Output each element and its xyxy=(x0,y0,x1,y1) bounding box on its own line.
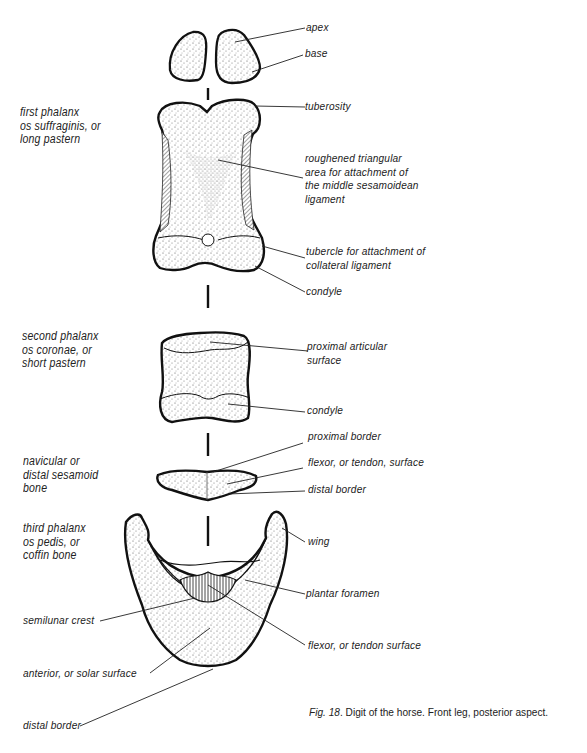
caption-text: Digit of the horse. Front leg, posterior… xyxy=(346,706,549,718)
label-navicular: navicular or distal sesamoid bone xyxy=(23,455,98,496)
label-plantar-foramen: plantar foramen xyxy=(306,587,380,601)
label-anterior-solar-surface: anterior, or solar surface xyxy=(23,667,137,681)
label-tuberosity: tuberosity xyxy=(305,100,351,114)
label-roughened-triangular-area: roughened triangular area for attachment… xyxy=(305,152,419,206)
second-phalanx-bone xyxy=(160,332,250,422)
navicular-bone xyxy=(157,471,256,500)
label-wing: wing xyxy=(308,535,330,549)
label-flexor-tendon-surface-coffin: flexor, or tendon surface xyxy=(308,639,421,653)
label-proximal-border: proximal border xyxy=(308,430,381,444)
label-second-phalanx: second phalanx os coronae, or short past… xyxy=(22,330,98,371)
proximal-sesamoid-bones xyxy=(170,30,260,83)
label-base: base xyxy=(305,47,328,61)
third-phalanx-bone xyxy=(125,512,287,666)
first-phalanx-bone xyxy=(153,100,264,271)
label-first-phalanx: first phalanx os suffraginis, or long pa… xyxy=(20,106,101,147)
figure-number: Fig. 18 xyxy=(309,706,340,718)
label-proximal-articular-surface: proximal articular surface xyxy=(307,340,387,367)
label-tubercle: tubercle for attachment of collateral li… xyxy=(306,245,425,272)
label-third-phalanx: third phalanx os pedis, or coffin bone xyxy=(23,522,86,563)
label-condyle-first: condyle xyxy=(306,285,342,299)
label-apex: apex xyxy=(306,21,329,35)
label-flexor-tendon-surface-navicular: flexor, or tendon, surface xyxy=(308,456,424,470)
label-distal-border-navicular: distal border xyxy=(308,483,366,497)
figure-caption: Fig. 18. Digit of the horse. Front leg, … xyxy=(309,706,548,718)
label-semilunar-crest: semilunar crest xyxy=(23,614,94,628)
label-distal-border-coffin: distal border xyxy=(23,719,81,733)
label-condyle-second: condyle xyxy=(307,404,343,418)
